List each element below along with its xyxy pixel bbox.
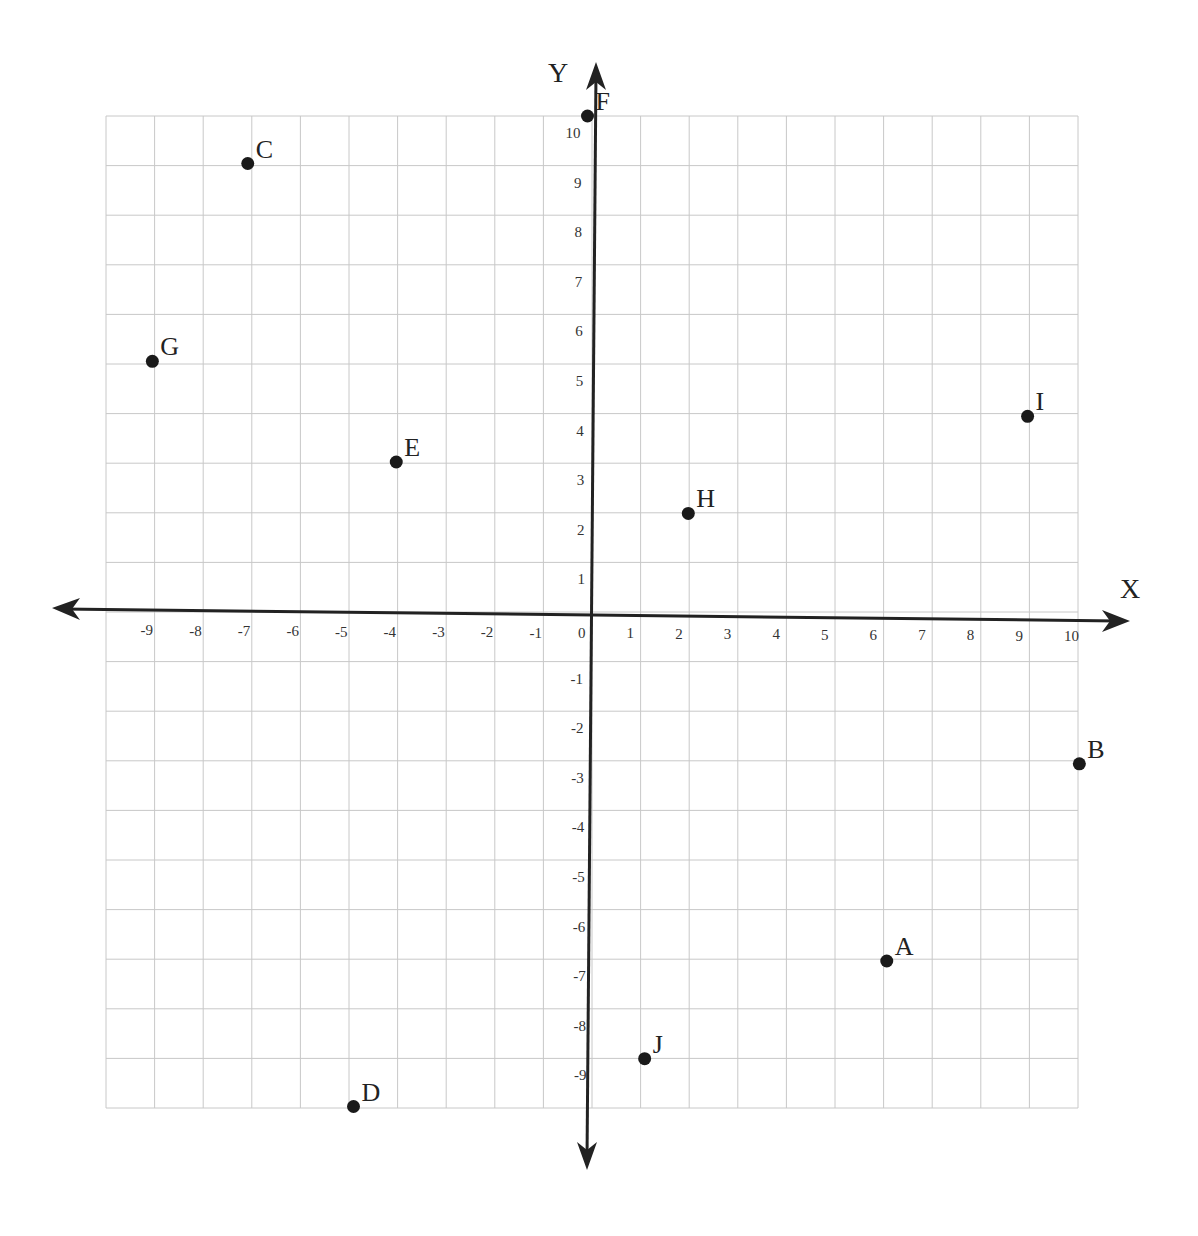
- y-tick-label: -1: [570, 671, 583, 687]
- y-tick-label: -8: [574, 1018, 587, 1034]
- y-tick-label: -3: [571, 770, 584, 786]
- point-label-g: G: [160, 332, 179, 361]
- point-label-d: D: [362, 1078, 381, 1107]
- y-axis-title: Y: [548, 57, 568, 88]
- x-tick-label: 9: [1015, 628, 1023, 644]
- point-label-e: E: [404, 433, 420, 462]
- x-tick-label: 3: [724, 626, 732, 642]
- point-i: [1021, 410, 1034, 423]
- point-f: [581, 110, 594, 123]
- point-g: [146, 355, 159, 368]
- y-tick-label: 6: [575, 323, 583, 339]
- y-tick-label: -2: [571, 720, 584, 736]
- y-tick-label: -6: [573, 919, 586, 935]
- x-tick-label: 5: [821, 627, 829, 643]
- coordinate-plane: X Y -9-8-7-6-5-4-3-2-1012345678910109876…: [0, 0, 1198, 1236]
- x-tick-label: 1: [627, 625, 635, 641]
- y-tick-label: -7: [573, 968, 586, 984]
- x-tick-label: 8: [967, 627, 975, 643]
- x-tick-label: 6: [870, 627, 878, 643]
- y-tick-label: -4: [572, 819, 585, 835]
- x-tick-label: 10: [1064, 628, 1079, 644]
- x-tick-label: -5: [335, 624, 348, 640]
- point-j: [638, 1052, 651, 1065]
- y-tick-label: 8: [574, 224, 582, 240]
- x-tick-label: 0: [578, 625, 586, 641]
- x-tick-label: -6: [286, 623, 299, 639]
- point-d: [347, 1100, 360, 1113]
- point-a: [880, 955, 893, 968]
- x-tick-label: -4: [384, 624, 397, 640]
- x-tick-label: -1: [529, 625, 542, 641]
- x-tick-label: 2: [675, 626, 683, 642]
- point-e: [390, 456, 403, 469]
- point-label-i: I: [1036, 387, 1045, 416]
- point-label-b: B: [1087, 735, 1104, 764]
- y-tick-label: 1: [578, 571, 586, 587]
- point-label-h: H: [696, 484, 715, 513]
- y-tick-label: -9: [574, 1067, 587, 1083]
- point-c: [241, 157, 254, 170]
- y-tick-label: 3: [577, 472, 585, 488]
- y-tick-label: -5: [572, 869, 585, 885]
- x-tick-label: -7: [238, 623, 251, 639]
- x-axis-title: X: [1120, 573, 1140, 604]
- point-label-c: C: [256, 135, 273, 164]
- y-tick-label: 4: [576, 423, 584, 439]
- x-tick-label: -2: [481, 624, 494, 640]
- x-tick-label: 4: [772, 626, 780, 642]
- x-tick-label: -8: [189, 623, 202, 639]
- y-tick-label: 9: [574, 175, 582, 191]
- point-label-a: A: [895, 932, 914, 961]
- axes: X Y: [52, 57, 1140, 1170]
- x-tick-label: -9: [141, 622, 154, 638]
- y-tick-label: 10: [566, 125, 581, 141]
- y-tick-label: 7: [575, 274, 583, 290]
- y-tick-label: 2: [577, 522, 585, 538]
- y-tick-label: 5: [576, 373, 584, 389]
- point-label-f: F: [596, 87, 610, 116]
- point-h: [682, 507, 695, 520]
- x-tick-label: 7: [918, 627, 926, 643]
- tick-labels: -9-8-7-6-5-4-3-2-10123456789101098765432…: [141, 125, 1079, 1083]
- x-tick-label: -3: [432, 624, 445, 640]
- point-b: [1073, 757, 1086, 770]
- point-label-j: J: [653, 1030, 663, 1059]
